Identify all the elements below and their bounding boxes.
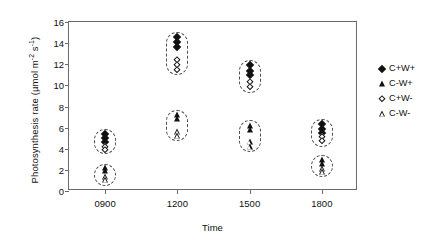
x-axis-tick-label: 1200 bbox=[167, 198, 188, 209]
open-triangle-icon bbox=[247, 143, 253, 149]
open-triangle-icon bbox=[379, 110, 385, 116]
legend-label: C-W+ bbox=[389, 78, 413, 88]
legend-item-CmWm[interactable]: C-W- bbox=[378, 107, 438, 122]
y-axis-tick-mark bbox=[65, 170, 69, 171]
y-axis-label-end: ) bbox=[29, 37, 40, 40]
x-axis-tick-label: 1800 bbox=[311, 198, 332, 209]
legend-item-CmWp[interactable]: C-W+ bbox=[378, 77, 438, 92]
legend: C+W+C-W+C+W-C-W- bbox=[378, 62, 438, 122]
x-axis-tick-mark bbox=[105, 189, 106, 194]
legend-item-CpWp[interactable]: C+W+ bbox=[378, 62, 438, 77]
open-triangle-icon bbox=[102, 177, 108, 183]
x-axis-tick-label: 1500 bbox=[239, 198, 260, 209]
y-axis-tick-mark bbox=[65, 191, 69, 192]
y-axis-label-text: Photosynthesis rate (µmol m bbox=[29, 60, 40, 183]
open-diamond-icon bbox=[378, 95, 386, 103]
y-axis-tick-mark bbox=[65, 64, 69, 65]
x-axis-tick-label: 0900 bbox=[95, 198, 116, 209]
plot-area: 0246810121416 0900120015001800 bbox=[68, 21, 357, 190]
legend-label: C+W+ bbox=[389, 63, 415, 73]
open-triangle-icon bbox=[319, 168, 325, 174]
y-axis-tick-mark bbox=[65, 43, 69, 44]
open-triangle-icon bbox=[174, 132, 180, 138]
x-axis-tick-mark bbox=[250, 189, 251, 194]
y-axis-label: Photosynthesis rate (µmol m-2 s-1) bbox=[28, 10, 40, 210]
filled-triangle-icon bbox=[102, 167, 108, 173]
y-axis-label-sup-2: -1 bbox=[28, 40, 35, 46]
legend-label: C-W- bbox=[389, 108, 410, 118]
filled-triangle-icon bbox=[247, 126, 253, 132]
y-axis-label-sup-1: -2 bbox=[28, 54, 35, 60]
y-axis-tick-mark bbox=[65, 149, 69, 150]
filled-triangle-icon bbox=[174, 116, 180, 122]
photosynthesis-scatter-figure: Photosynthesis rate (µmol m-2 s-1) 02468… bbox=[0, 0, 438, 244]
y-axis-tick-mark bbox=[65, 85, 69, 86]
y-axis-tick-mark bbox=[65, 22, 69, 23]
y-axis-tick-mark bbox=[65, 107, 69, 108]
y-axis-tick-mark bbox=[65, 128, 69, 129]
legend-item-CpWm[interactable]: C+W- bbox=[378, 92, 438, 107]
y-axis-label-mid: s bbox=[29, 46, 40, 54]
filled-diamond-icon bbox=[378, 65, 386, 73]
x-axis-tick-mark bbox=[177, 189, 178, 194]
x-axis-tick-mark bbox=[322, 189, 323, 194]
filled-triangle-icon bbox=[379, 80, 385, 86]
x-axis-label: Time bbox=[68, 222, 357, 233]
legend-label: C+W- bbox=[389, 93, 413, 103]
